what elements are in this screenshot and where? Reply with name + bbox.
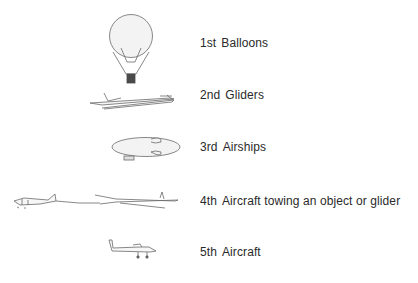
- priority-item-1: 1stBalloons: [200, 36, 268, 50]
- item-label: Gliders: [225, 88, 264, 102]
- item-label: Aircraft: [222, 245, 261, 259]
- priority-item-2: 2ndGliders: [200, 88, 264, 102]
- rank: 5th: [200, 245, 217, 259]
- aircraft-icon: [109, 240, 156, 258]
- item-label: Aircraft towing an object or glider: [222, 194, 400, 208]
- rank: 1st: [200, 36, 216, 50]
- aircraft-towing-glider-icon: [14, 192, 178, 208]
- priority-item-3: 3rdAirships: [200, 140, 266, 154]
- item-label: Airships: [223, 140, 266, 154]
- rank: 3rd: [200, 140, 218, 154]
- priority-item-4: 4thAircraft towing an object or glider: [200, 194, 400, 208]
- glider-icon: [90, 93, 174, 109]
- item-label: Balloons: [221, 36, 268, 50]
- airship-icon: [112, 138, 180, 161]
- priority-item-5: 5thAircraft: [200, 245, 261, 259]
- hot-air-balloon-icon: [110, 15, 153, 84]
- rank: 4th: [200, 194, 217, 208]
- rank: 2nd: [200, 88, 220, 102]
